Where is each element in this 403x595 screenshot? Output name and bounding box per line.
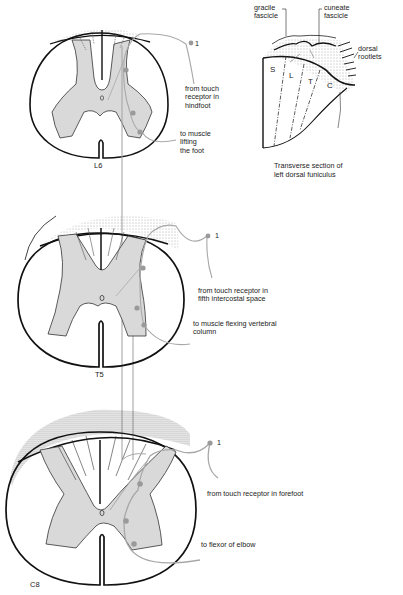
region-l-label: L <box>289 71 293 80</box>
c8-afferent-label: from touch receptor in forefoot <box>207 490 303 498</box>
gracile-fascicle-label: gracile fascicle <box>254 4 278 21</box>
cuneate-fascicle-label: cuneate fascicle <box>324 4 350 21</box>
dorsal-rootlets-label: dorsal rootlets <box>358 45 382 62</box>
section-t5 <box>18 216 212 367</box>
c8-segment-label: C8 <box>30 580 40 589</box>
t5-afferent-label: from touch receptor in fifth intercostal… <box>198 287 268 304</box>
section-c8 <box>6 410 218 585</box>
l6-segment-label: L6 <box>94 161 102 170</box>
region-c-label: C <box>327 81 333 90</box>
region-s-label: S <box>270 65 275 74</box>
region-t-label: T <box>308 77 313 86</box>
inset-caption: Transverse section of left dorsal funicu… <box>274 162 342 179</box>
l6-neuron-number: 1 <box>195 40 199 48</box>
c8-neuron-number: 1 <box>217 439 221 447</box>
c8-efferent-label: to flexor of elbow <box>201 541 255 549</box>
l6-afferent-label: from touch receptor in hindfoot <box>185 85 219 110</box>
l6-efferent-label: to muscle lifting the foot <box>180 130 211 155</box>
t5-segment-label: T5 <box>95 370 104 379</box>
t5-efferent-label: to muscle flexing vertebral column <box>193 320 277 337</box>
section-l6 <box>30 29 194 158</box>
t5-neuron-number: 1 <box>215 232 219 240</box>
